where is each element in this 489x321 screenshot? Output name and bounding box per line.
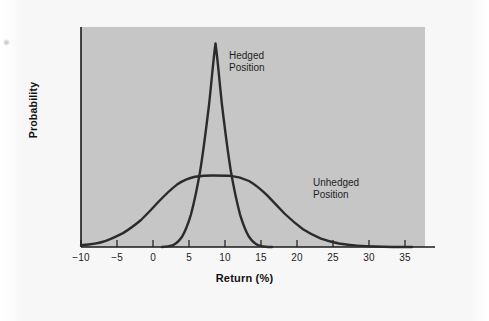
x-tick-label-15: 15 [246,252,276,263]
x-tick-label-30: 30 [354,252,384,263]
series-label-hedged-position: Hedged Position [229,50,265,73]
x-tick-label-20: 20 [282,252,312,263]
x-tick-label-5: 5 [174,252,204,263]
x-tick-label--10: −10 [66,252,96,263]
x-axis-title: Return (%) [0,272,489,284]
chart-figure: −10 −5 0 5 10 15 20 25 30 35 Return (%) … [0,0,489,321]
x-tick-label-25: 25 [318,252,348,263]
x-tick-label--5: −5 [102,252,132,263]
x-tick-label-10: 10 [210,252,240,263]
curve-hedged-position [162,44,272,248]
y-axis-title: Probability [27,55,39,165]
curve-unhedged-position [81,176,412,248]
x-tick-label-0: 0 [138,252,168,263]
x-tick-label-35: 35 [390,252,420,263]
series-label-unhedged-position: Unhedged Position [313,177,359,200]
